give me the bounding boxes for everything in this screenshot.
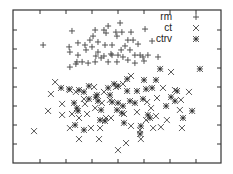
point-ct bbox=[82, 101, 88, 107]
point-ctrv bbox=[109, 99, 115, 105]
point-ctrv bbox=[172, 98, 178, 104]
point-ct bbox=[158, 124, 164, 130]
point-ct bbox=[67, 125, 73, 131]
point-rm bbox=[105, 23, 111, 29]
point-ct bbox=[153, 113, 159, 119]
point-rm bbox=[155, 54, 161, 60]
point-ctrv bbox=[86, 96, 92, 102]
point-ctrv bbox=[114, 107, 120, 113]
point-ct bbox=[31, 128, 37, 134]
point-rm bbox=[85, 60, 91, 66]
point-rm bbox=[109, 52, 115, 58]
point-rm bbox=[87, 37, 93, 43]
point-rm bbox=[127, 47, 133, 53]
point-ctrv bbox=[180, 115, 186, 121]
point-ct bbox=[128, 73, 134, 79]
point-ct bbox=[76, 136, 82, 142]
point-rm bbox=[92, 27, 98, 33]
point-rm bbox=[118, 47, 124, 53]
legend-cross-icon bbox=[193, 25, 199, 31]
point-rm bbox=[125, 37, 131, 43]
point-rm bbox=[125, 57, 131, 63]
point-ct bbox=[76, 115, 82, 121]
point-rm bbox=[122, 43, 128, 49]
point-ct bbox=[150, 125, 156, 131]
point-rm bbox=[132, 52, 138, 58]
point-ctrv bbox=[58, 85, 64, 91]
point-ct bbox=[69, 111, 75, 117]
point-ctrv bbox=[93, 94, 99, 100]
point-rm bbox=[40, 42, 46, 48]
point-ct bbox=[123, 140, 129, 146]
point-ctrv bbox=[143, 86, 149, 92]
point-ct bbox=[148, 105, 154, 111]
data-points bbox=[31, 20, 203, 153]
point-ct bbox=[88, 125, 94, 131]
point-rm bbox=[90, 33, 96, 39]
point-ctrv bbox=[149, 85, 155, 91]
point-ct bbox=[164, 117, 170, 123]
point-ctrv bbox=[81, 127, 87, 133]
point-ctrv bbox=[138, 123, 144, 129]
point-rm bbox=[102, 42, 108, 48]
point-ctrv bbox=[86, 83, 92, 89]
point-rm bbox=[69, 28, 75, 34]
point-rm bbox=[108, 51, 114, 57]
point-rm bbox=[66, 44, 72, 50]
point-ct bbox=[128, 123, 134, 129]
point-rm bbox=[149, 38, 155, 44]
point-ctrv bbox=[163, 103, 169, 109]
point-ctrv bbox=[115, 83, 121, 89]
point-ctrv bbox=[153, 77, 159, 83]
point-ct bbox=[115, 147, 121, 153]
point-rm bbox=[92, 59, 98, 65]
point-ct bbox=[177, 107, 183, 113]
point-ct bbox=[59, 101, 65, 107]
point-ctrv bbox=[197, 66, 203, 72]
legend-label-ct: ct bbox=[164, 22, 172, 33]
point-rm bbox=[114, 59, 120, 65]
point-ct bbox=[134, 109, 140, 115]
point-ctrv bbox=[174, 88, 180, 94]
point-ctrv bbox=[66, 86, 72, 92]
legend-marker-ctrv bbox=[193, 36, 199, 42]
point-rm bbox=[109, 42, 115, 48]
point-ct bbox=[84, 111, 90, 117]
point-ctrv bbox=[81, 89, 87, 95]
point-ctrv bbox=[157, 66, 163, 72]
point-rm bbox=[132, 60, 138, 66]
point-rm bbox=[119, 29, 125, 35]
legend-marker-ct bbox=[193, 25, 199, 31]
point-ctrv bbox=[120, 103, 126, 109]
point-ctrv bbox=[145, 112, 151, 118]
point-ct bbox=[92, 105, 98, 111]
point-rm bbox=[130, 37, 136, 43]
point-ct bbox=[48, 91, 54, 97]
point-ct bbox=[154, 95, 160, 101]
legend-plus-icon bbox=[193, 14, 199, 20]
point-ct bbox=[108, 115, 114, 121]
point-ct bbox=[59, 112, 65, 118]
point-ctrv bbox=[124, 88, 130, 94]
point-ctrv bbox=[105, 85, 111, 91]
point-ctrv bbox=[141, 77, 147, 83]
legend-star-icon bbox=[193, 36, 199, 42]
legend-label-rm: rm bbox=[160, 11, 172, 22]
point-ctrv bbox=[102, 118, 108, 124]
point-ctrv bbox=[121, 120, 127, 126]
point-rm bbox=[117, 20, 123, 26]
legend-label-ctrv: ctrv bbox=[156, 33, 172, 44]
point-ct bbox=[160, 85, 166, 91]
point-ctrv bbox=[189, 108, 195, 114]
point-rm bbox=[142, 26, 148, 32]
point-ctrv bbox=[124, 76, 130, 82]
point-rm bbox=[113, 29, 119, 35]
legend-marker-rm bbox=[193, 14, 199, 20]
point-rm bbox=[105, 59, 111, 65]
point-ct bbox=[144, 99, 150, 105]
point-ctrv bbox=[98, 107, 104, 113]
point-ct bbox=[178, 97, 184, 103]
scatter-chart: rm ct ctrv bbox=[0, 0, 233, 174]
point-ctrv bbox=[75, 108, 81, 114]
point-ct bbox=[186, 89, 192, 95]
